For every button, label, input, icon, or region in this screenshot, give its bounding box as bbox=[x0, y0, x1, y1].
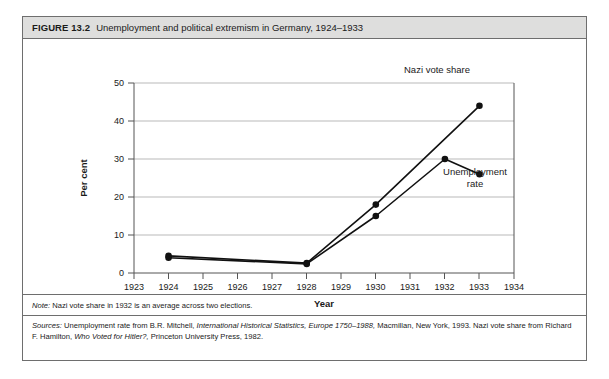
y-tick-label: 30 bbox=[114, 154, 124, 164]
y-axis-ticks bbox=[128, 83, 134, 273]
y-tick-label: 40 bbox=[114, 116, 124, 126]
x-tick-label: 1924 bbox=[158, 282, 178, 292]
sources-part1: Unemployment rate from B.R. Mitchell, bbox=[62, 321, 197, 330]
data-point bbox=[442, 156, 449, 163]
x-axis-ticks bbox=[134, 273, 514, 279]
figure-number: FIGURE 13.2 bbox=[32, 22, 90, 33]
gridlines bbox=[134, 83, 514, 235]
x-tick-label: 1923 bbox=[124, 282, 144, 292]
y-axis-tick-labels: 50 40 30 20 10 0 bbox=[114, 78, 124, 278]
data-point bbox=[373, 213, 380, 220]
series-line-nazi-vote-share bbox=[169, 106, 480, 263]
y-tick-label: 20 bbox=[114, 192, 124, 202]
figure-container: FIGURE 13.2 Unemployment and political e… bbox=[22, 16, 587, 361]
sources-citation-1: International Historical Statistics, Eur… bbox=[197, 321, 376, 330]
x-tick-label: 1930 bbox=[365, 282, 385, 292]
y-tick-label: 50 bbox=[114, 78, 124, 88]
x-tick-label: 1929 bbox=[331, 282, 351, 292]
note-body: Nazi vote share in 1932 is an average ac… bbox=[50, 301, 252, 310]
x-axis-title-layer: Year bbox=[23, 39, 586, 40]
sources-lead: Sources: bbox=[32, 321, 62, 330]
chart-plot-area: 50 40 30 20 10 0 Per cent bbox=[23, 39, 586, 294]
y-tick-label: 10 bbox=[114, 230, 124, 240]
x-tick-label: 1928 bbox=[296, 282, 316, 292]
data-series-layer bbox=[165, 103, 483, 268]
x-tick-label: 1926 bbox=[227, 282, 247, 292]
data-point bbox=[303, 261, 310, 268]
x-axis-tick-labels: 1923 1924 1925 1926 1927 1928 1929 1930 … bbox=[124, 282, 524, 292]
series-label-unemployment-line1: Unemployment bbox=[443, 166, 507, 177]
x-tick-label: 1931 bbox=[400, 282, 420, 292]
data-point bbox=[373, 201, 380, 208]
x-tick-label: 1932 bbox=[434, 282, 454, 292]
series-label-nazi: Nazi vote share bbox=[404, 64, 470, 75]
data-point bbox=[476, 103, 483, 110]
x-tick-label: 1925 bbox=[193, 282, 213, 292]
note-lead: Note: bbox=[32, 301, 50, 310]
sources-part3: Princeton University Press, 1982. bbox=[149, 332, 263, 341]
series-label-unemployment-line2: rate bbox=[467, 178, 483, 189]
sources-citation-2: Who Voted for Hitler?, bbox=[74, 332, 148, 341]
figure-title: Unemployment and political extremism in … bbox=[96, 22, 363, 33]
axis-frame bbox=[134, 83, 514, 273]
x-tick-label: 1927 bbox=[262, 282, 282, 292]
y-axis-title: Per cent bbox=[78, 158, 89, 196]
x-tick-label: 1934 bbox=[504, 282, 524, 292]
figure-note: Note: Nazi vote share in 1932 is an aver… bbox=[23, 294, 586, 315]
data-point bbox=[165, 255, 172, 262]
figure-sources: Sources: Unemployment rate from B.R. Mit… bbox=[23, 315, 586, 360]
x-tick-label: 1933 bbox=[469, 282, 489, 292]
y-tick-label: 0 bbox=[119, 268, 124, 278]
figure-header: FIGURE 13.2 Unemployment and political e… bbox=[23, 17, 586, 39]
line-chart: 50 40 30 20 10 0 Per cent bbox=[23, 39, 586, 294]
